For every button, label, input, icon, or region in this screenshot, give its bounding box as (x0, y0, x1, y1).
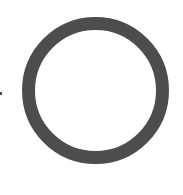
circle-ring-icon (22, 17, 169, 164)
dot-icon (0, 92, 2, 95)
canvas (0, 0, 183, 195)
